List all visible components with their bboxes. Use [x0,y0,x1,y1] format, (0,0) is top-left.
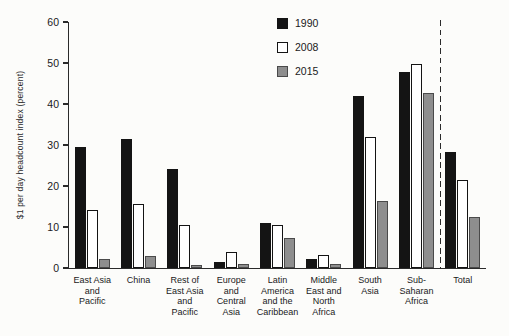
bars-3 [214,252,249,268]
bar-group-3: Europe and Central Asia [208,22,254,268]
bar-2008-group-8 [457,180,468,268]
y-tick-40 [63,103,68,105]
bars-5 [306,255,341,268]
bar-2008-group-6 [365,137,376,268]
bar-1990-group-2 [167,169,178,268]
bar-2008-group-1 [133,204,144,268]
y-tick-label-60: 60 [33,17,59,27]
bars-8 [445,152,480,268]
category-label-3: Europe and Central Asia [205,275,257,317]
y-tick-30 [63,144,68,146]
y-tick-label-40: 40 [33,99,59,109]
bar-group-1: China [115,22,161,268]
bar-2015-group-6 [377,201,388,268]
y-tick-20 [63,185,68,187]
category-label-5: Middle East and North Africa [298,275,350,317]
poverty-headcount-bar-chart: $1 per day headcount index (percent) 010… [0,0,509,336]
bar-group-8: Total [440,22,486,268]
bar-group-7: Sub- Saharan Africa [393,22,439,268]
bar-2015-group-7 [423,93,434,268]
legend-label-2008: 2008 [295,41,318,53]
bar-1990-group-4 [260,223,271,268]
bar-1990-group-5 [306,259,317,268]
category-label-7: Sub- Saharan Africa [390,275,442,307]
category-label-4: Latin America and the Caribbean [251,275,303,317]
legend-swatch-2015-icon [277,66,288,77]
bar-2008-group-4 [272,225,283,268]
bar-1990-group-7 [399,72,410,268]
y-tick-10 [63,226,68,228]
legend-item-1990: 1990 [277,17,318,29]
y-tick-60 [63,21,68,23]
y-tick-label-0: 0 [33,263,59,273]
bar-2015-group-1 [145,256,156,268]
bars-0 [75,147,110,268]
bar-2015-group-5 [330,264,341,268]
bar-2008-group-3 [226,252,237,268]
y-axis-title: $1 per day headcount index (percent) [15,71,25,220]
bar-2015-group-8 [469,217,480,268]
legend-item-2008: 2008 [277,41,318,53]
legend: 1990 2008 2015 [277,17,318,77]
bars-6 [353,96,388,268]
bar-1990-group-8 [445,152,456,268]
y-tick-0 [63,267,68,269]
bar-group-6: South Asia [347,22,393,268]
bar-2015-group-0 [99,259,110,268]
bar-1990-group-3 [214,262,225,268]
bar-2008-group-7 [411,64,422,268]
legend-item-2015: 2015 [277,65,318,77]
bar-group-0: East Asia and Pacific [69,22,115,268]
y-tick-50 [63,62,68,64]
bar-2008-group-5 [318,255,329,268]
bar-2015-group-3 [238,264,249,268]
y-tick-label-20: 20 [33,181,59,191]
category-label-6: South Asia [344,275,396,296]
bars-4 [260,223,295,268]
legend-swatch-1990-icon [277,18,288,29]
bar-group-2: Rest of East Asia and Pacific [162,22,208,268]
bar-1990-group-0 [75,147,86,268]
legend-swatch-2008-icon [277,42,288,53]
y-tick-label-50: 50 [33,58,59,68]
category-label-1: China [112,275,164,286]
legend-label-2015: 2015 [295,65,318,77]
bars-2 [167,169,202,268]
bar-1990-group-1 [121,139,132,268]
bar-2008-group-0 [87,210,98,268]
y-tick-label-30: 30 [33,140,59,150]
category-label-0: East Asia and Pacific [66,275,118,307]
bar-1990-group-6 [353,96,364,268]
bars-1 [121,139,156,268]
category-label-8: Total [437,275,489,286]
bar-2008-group-2 [179,225,190,268]
bar-2015-group-4 [284,238,295,268]
bar-2015-group-2 [191,265,202,268]
category-label-2: Rest of East Asia and Pacific [159,275,211,317]
total-separator-dashed-line [440,20,442,268]
y-tick-label-10: 10 [33,222,59,232]
legend-label-1990: 1990 [295,17,318,29]
bars-7 [399,64,434,268]
